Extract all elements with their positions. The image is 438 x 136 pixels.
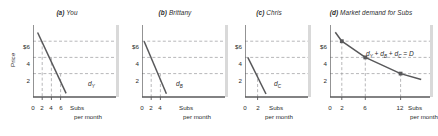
panel-d-xtick-label-6: 6 <box>359 104 371 111</box>
panel-d-eq-plus2: + <box>387 50 395 57</box>
panel-c-curve-label: dC <box>274 80 281 87</box>
panel-d-equation-label: dY + dB + dC = D <box>366 50 414 57</box>
panel-b-xtick-label-4: 4 <box>154 104 166 111</box>
panel-d-svg <box>330 25 433 100</box>
panel-a-plot-bg <box>33 25 116 97</box>
panel-b-title-text: Brittany <box>169 9 191 16</box>
panel-d-eq-sub3: C <box>398 54 401 59</box>
panel-d-ytick-6: $6 <box>310 43 327 50</box>
panel-c-xtick-label-2: 2 <box>252 104 264 111</box>
panel-b-plot-bg <box>142 25 225 97</box>
panel-d-marker-point-3 <box>399 72 403 76</box>
panel-a-ytick-6: $6 <box>13 43 30 50</box>
panel-d-ytick-2: 2 <box>310 77 327 84</box>
panel-b-curve-subscript: B <box>180 84 183 89</box>
panel-a-xtick-label-6: 6 <box>55 104 67 111</box>
panel-b-ytick-4: 4 <box>122 60 139 67</box>
panel-a-x-axis-title-line2: per month <box>74 113 102 122</box>
panel-a-x-axis-title: Subs per month <box>70 104 102 121</box>
panel-b-x-axis-title-line1: Subs <box>179 104 211 113</box>
panel-b-brittany: (b) Brittany $6 4 2 dB <box>122 0 232 136</box>
panel-a-ytick-2: 2 <box>13 77 30 84</box>
panel-b-curve-label: dB <box>176 80 183 87</box>
panel-c-title: (c) Chris <box>226 9 312 16</box>
panel-b-ytick-6: $6 <box>122 43 139 50</box>
panel-d-x-axis-title-line2: per month <box>410 113 438 122</box>
panel-b-svg <box>142 25 228 100</box>
panel-d-eq-sub2: B <box>384 54 387 59</box>
panel-c-ytick-4: 4 <box>225 60 242 67</box>
panel-d-ytick-4: 4 <box>310 60 327 67</box>
panel-d-title-text: Market demand for Subs <box>340 9 412 16</box>
panel-b-title: (b) Brittany <box>122 9 228 16</box>
panel-d-market-demand: (d) Market demand for Subs $6 4 2 <box>312 0 433 136</box>
panel-a-plot-area <box>33 25 119 100</box>
panel-c-chris: (c) Chris $6 4 2 dC 0 2 <box>226 0 321 136</box>
panel-a-ytick-4: 4 <box>13 60 30 67</box>
panel-c-x-axis-title-line1: Subs <box>269 104 293 113</box>
panel-d-xtick-label-0: 0 <box>324 104 336 111</box>
panel-d-eq-sub1: Y <box>370 54 373 59</box>
panel-a-svg <box>33 25 119 100</box>
panel-a-x-axis-title-line1: Subs <box>70 104 102 113</box>
panel-a-you: (a) You Price $6 4 2 <box>0 0 130 136</box>
panel-b-x-axis-title: Subs per month <box>179 104 211 121</box>
panel-d-plot-bg <box>330 25 430 97</box>
panel-d-xtick-label-12: 12 <box>394 104 406 111</box>
panel-c-xtick-label-0: 0 <box>239 104 251 111</box>
panel-d-tag: (d) <box>330 9 338 16</box>
panel-b-plot-area <box>142 25 228 100</box>
panel-c-title-text: Chris <box>266 9 281 16</box>
panel-a-curve-label: dY <box>88 80 95 87</box>
panel-b-tag: (b) <box>159 9 167 16</box>
panel-a-tag: (a) <box>56 9 64 16</box>
panel-d-marker-point-1 <box>340 39 344 43</box>
panel-c-tag: (c) <box>256 9 264 16</box>
panel-a-title-text: You <box>66 9 77 16</box>
panel-d-plot-area <box>330 25 433 100</box>
panel-b-x-axis-title-line2: per month <box>183 113 211 122</box>
panel-a-curve-subscript: Y <box>92 84 95 89</box>
panel-d-title: (d) Market demand for Subs <box>312 9 430 16</box>
panel-c-x-axis-title-line2: per month <box>265 113 293 122</box>
panel-c-ytick-6: $6 <box>225 43 242 50</box>
panel-d-x-axis-title: Subs per month <box>408 104 438 121</box>
panel-d-x-axis-title-line1: Subs <box>408 104 438 113</box>
panel-d-eq-equals: = D <box>402 50 414 57</box>
panel-c-x-axis-title: Subs per month <box>269 104 293 121</box>
panel-c-curve-subscript: C <box>278 84 281 89</box>
panel-c-ytick-2: 2 <box>225 77 242 84</box>
panel-d-xtick-label-2: 2 <box>336 104 348 111</box>
panel-a-title: (a) You <box>12 9 122 16</box>
panel-b-ytick-2: 2 <box>122 77 139 84</box>
